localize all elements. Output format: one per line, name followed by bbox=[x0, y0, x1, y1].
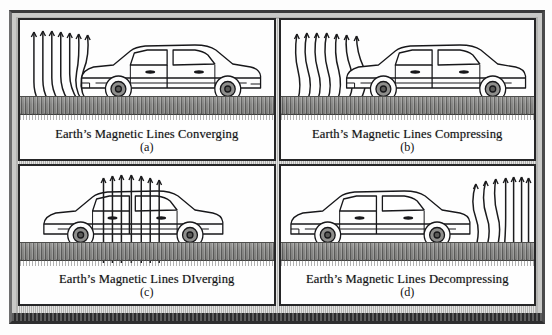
magnetic-field-lines-icon bbox=[294, 33, 365, 100]
panel-c-caption-text: Earth’s Magnetic Lines DIverging bbox=[20, 272, 274, 286]
car-side-icon bbox=[82, 45, 261, 102]
panel-c-sub-label: (c) bbox=[20, 286, 274, 300]
frame-bottom-band bbox=[12, 313, 542, 321]
road-fringe bbox=[20, 259, 274, 266]
panel-a: Earth’s Magnetic Lines Converging (a) bbox=[18, 18, 276, 161]
car-side-icon bbox=[44, 191, 223, 248]
panel-c: Earth’s Magnetic Lines DIverging (c) bbox=[18, 164, 276, 307]
panel-a-caption-text: Earth’s Magnetic Lines Converging bbox=[20, 127, 274, 141]
road-fringe bbox=[20, 113, 274, 120]
panel-b: Earth’s Magnetic Lines Compressing (b) bbox=[279, 18, 537, 161]
panel-c-caption: Earth’s Magnetic Lines DIverging (c) bbox=[20, 272, 274, 300]
magnetic-field-lines-icon bbox=[31, 31, 90, 100]
panel-d-caption-text: Earth’s Magnetic Lines Decompressing bbox=[281, 272, 535, 286]
panel-grid: Earth’s Magnetic Lines Converging (a) bbox=[18, 18, 536, 306]
panel-d: Earth’s Magnetic Lines Decompressing (d) bbox=[279, 164, 537, 307]
road-fringe bbox=[281, 113, 535, 120]
panel-d-caption: Earth’s Magnetic Lines Decompressing (d) bbox=[281, 272, 535, 300]
panel-b-sub-label: (b) bbox=[281, 141, 535, 155]
panel-a-sub-label: (a) bbox=[20, 141, 274, 155]
car-side-icon bbox=[346, 45, 525, 102]
panel-a-caption: Earth’s Magnetic Lines Converging (a) bbox=[20, 127, 274, 155]
panel-d-sub-label: (d) bbox=[281, 286, 535, 300]
panel-b-caption-text: Earth’s Magnetic Lines Compressing bbox=[281, 127, 535, 141]
figure-root: Earth’s Magnetic Lines Converging (a) bbox=[0, 0, 552, 335]
car-side-icon bbox=[290, 191, 469, 248]
road-fringe bbox=[281, 259, 535, 266]
panel-b-caption: Earth’s Magnetic Lines Compressing (b) bbox=[281, 127, 535, 155]
